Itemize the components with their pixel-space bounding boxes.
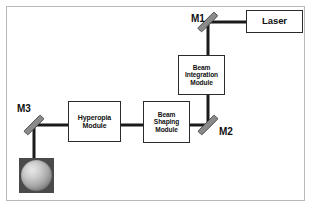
node-bim-label-line2: Integration (185, 71, 218, 78)
node-hyperopia-module: Hyperopia Module (68, 101, 121, 142)
mirror-m1-label: M1 (191, 13, 205, 24)
node-beam-shaping-module: Beam Shaping Module (143, 101, 190, 143)
node-bsm-label-line3: Module (155, 126, 177, 133)
mirror-m3-label: M3 (17, 103, 31, 114)
node-laser: Laser (246, 10, 303, 33)
mirror-m2-label: M2 (219, 126, 233, 137)
node-bim-label-line1: Beam (193, 64, 211, 71)
node-hyperopia-label-line1: Hyperopia (78, 114, 111, 122)
eye-target-icon (21, 160, 52, 191)
node-bsm-label-line1: Beam (158, 111, 176, 118)
node-hyperopia-label-line2: Module (83, 122, 107, 130)
node-laser-label: Laser (262, 16, 287, 27)
node-bsm-label-line2: Shaping (154, 118, 179, 125)
node-bim-label-line3: Module (190, 79, 212, 86)
diagram-figure: Laser Beam Integration Module Hyperopia … (0, 0, 313, 209)
node-beam-integration-module: Beam Integration Module (178, 55, 225, 95)
